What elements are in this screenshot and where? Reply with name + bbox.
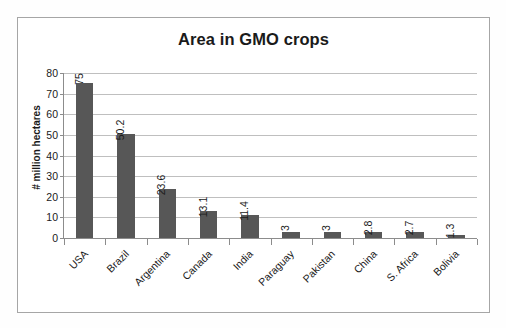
y-tick-label: 70 <box>18 88 58 100</box>
bar-value-label: 23.6 <box>155 175 167 195</box>
bar-series: 7550.223.613.111.4332.82.71.3 <box>64 73 477 238</box>
y-tick-label: 80 <box>18 67 58 79</box>
y-tick-label: 50 <box>18 129 58 141</box>
x-axis-category-text: USA <box>66 248 90 272</box>
x-label-cell: Argentina <box>147 247 188 307</box>
x-label-cell: Pakistan <box>312 247 353 307</box>
bar-group: 11.4 <box>229 73 270 238</box>
x-axis-category-text: China <box>351 248 379 276</box>
x-label-cell: Canada <box>188 247 229 307</box>
x-axis-category-text: India <box>230 248 255 273</box>
x-tick-mark <box>64 239 65 245</box>
bar-value-label: 50.2 <box>114 120 126 140</box>
bar[interactable] <box>282 232 299 238</box>
bar[interactable] <box>159 189 176 238</box>
bar[interactable] <box>76 83 93 238</box>
x-axis-category-text: Bolivia <box>431 248 461 278</box>
y-tick-label: 20 <box>18 191 58 203</box>
bar[interactable] <box>324 232 341 238</box>
bar-group: 23.6 <box>147 73 188 238</box>
chart-page: Area in GMO crops # million hectares 807… <box>0 0 506 328</box>
bar-value-label: 13.1 <box>197 197 209 217</box>
y-tick-label: 40 <box>18 150 58 162</box>
bar-group: 2.8 <box>353 73 394 238</box>
bar-group: 13.1 <box>188 73 229 238</box>
y-tick-label: 30 <box>18 170 58 182</box>
x-axis-category-text: Brazil <box>104 248 131 275</box>
bar-value-label: 11.4 <box>238 201 250 221</box>
bar-group: 75 <box>64 73 105 238</box>
chart-title: Area in GMO crops <box>18 30 489 49</box>
x-axis-labels: USABrazilArgentinaCanadaIndiaParaguayPak… <box>64 247 477 307</box>
bar[interactable] <box>117 134 134 238</box>
chart-frame: Area in GMO crops # million hectares 807… <box>17 17 490 313</box>
bar-group: 1.3 <box>436 73 477 238</box>
bar-group: 3 <box>270 73 311 238</box>
bar-value-label: 3 <box>279 225 291 231</box>
y-tick-label: 10 <box>18 211 58 223</box>
y-tick-label: 60 <box>18 108 58 120</box>
bar-group: 50.2 <box>105 73 146 238</box>
bar-value-label: 2.7 <box>403 221 415 236</box>
x-label-cell: Bolivia <box>436 247 477 307</box>
y-tick-label: 0 <box>18 232 58 244</box>
plot-area: 80706050403020100 7550.223.613.111.4332.… <box>64 73 477 238</box>
bar-group: 2.7 <box>394 73 435 238</box>
bar-group: 3 <box>312 73 353 238</box>
bar-value-label: 75 <box>73 73 85 85</box>
x-label-cell: S. Africa <box>394 247 435 307</box>
x-label-cell: USA <box>64 247 105 307</box>
